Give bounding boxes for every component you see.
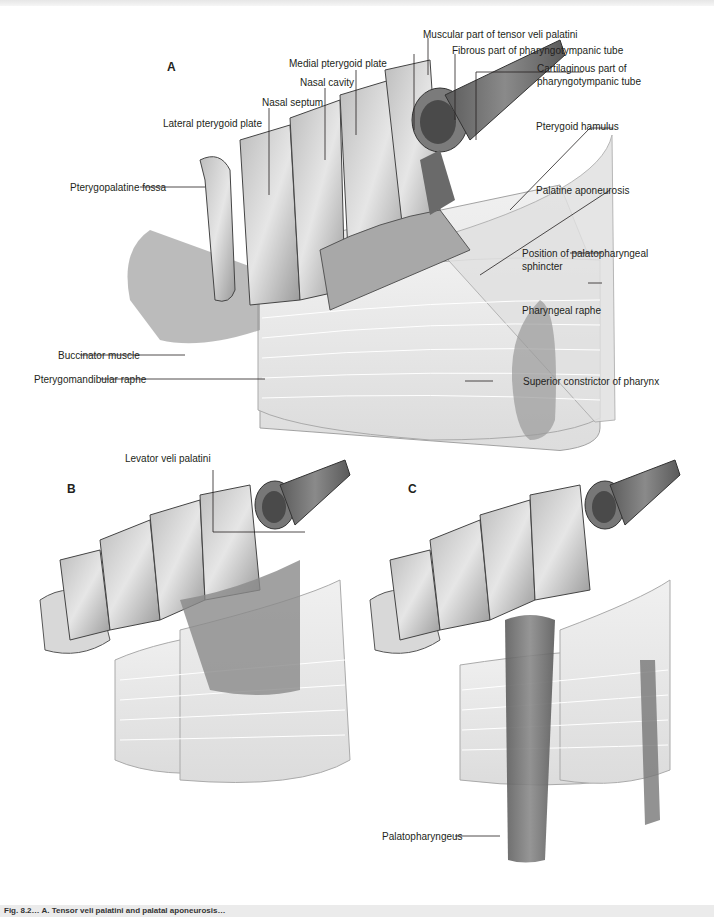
label-medial-pterygoid-plate: Medial pterygoid plate [289,57,387,70]
label-fibrous-tube: Fibrous part of pharyngotympanic tube [452,44,623,57]
panel-letter-b: B [67,482,76,496]
panel-letter-a: A [167,60,176,74]
label-pterygoid-hamulus: Pterygoid hamulus [536,120,619,133]
label-palatopharyngeal-sphincter-2: sphincter [522,260,563,273]
label-buccinator-muscle: Buccinator muscle [58,349,140,362]
panel-b-art [40,460,350,783]
label-palatopharyngeus: Palatopharyngeus [382,830,463,843]
label-lateral-pterygoid-plate: Lateral pterygoid plate [163,117,262,130]
label-cartilaginous-tube-2: pharyngotympanic tube [537,75,641,88]
label-muscular-tensor: Muscular part of tensor veli palatini [423,28,578,41]
label-nasal-cavity: Nasal cavity [300,76,354,89]
label-levator-veli-palatini: Levator veli palatini [125,452,211,465]
label-cartilaginous-tube-1: Cartilaginous part of [537,62,627,75]
figure-caption: Fig. 8.2… A. Tensor veli palatini and pa… [0,905,714,917]
label-palatopharyngeal-sphincter-1: Position of palatopharyngeal [522,247,648,260]
panel-c-art [370,460,680,863]
label-nasal-septum: Nasal septum [262,96,323,109]
label-superior-constrictor: Superior constrictor of pharynx [523,375,659,388]
panel-letter-c: C [408,482,417,496]
label-pharyngeal-raphe: Pharyngeal raphe [522,304,601,317]
label-palatine-aponeurosis: Palatine aponeurosis [536,184,629,197]
label-pterygomandibular-raphe: Pterygomandibular raphe [34,373,146,386]
label-pterygopalatine-fossa: Pterygopalatine fossa [70,181,166,194]
anatomy-illustration [0,0,714,917]
panel-a-art [128,40,616,451]
